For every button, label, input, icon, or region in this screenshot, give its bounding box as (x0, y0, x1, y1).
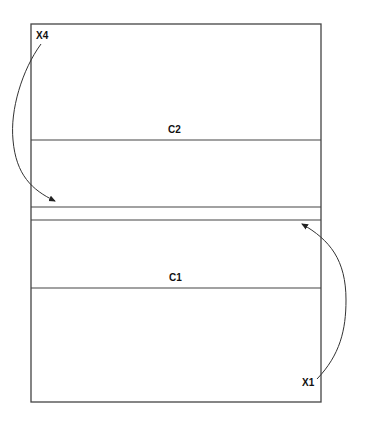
label-x4: X4 (36, 30, 48, 41)
label-x1: X1 (302, 377, 314, 388)
diagram-canvas (0, 0, 365, 423)
outer-frame (31, 24, 321, 402)
x1-arrow (302, 224, 346, 379)
label-c1: C1 (169, 272, 182, 283)
x4-arrow (13, 44, 55, 201)
label-c2: C2 (168, 124, 181, 135)
